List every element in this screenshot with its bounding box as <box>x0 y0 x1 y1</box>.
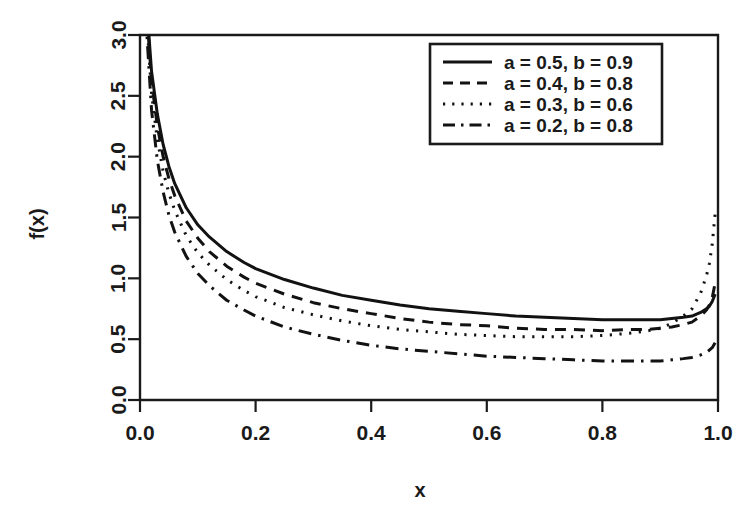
y-tick-label: 2.0 <box>107 142 130 171</box>
x-tick-label: 0.8 <box>588 421 618 444</box>
x-axis-title: x <box>414 479 425 501</box>
y-tick-label: 3.0 <box>107 20 130 49</box>
legend-label: a = 0.5, b = 0.9 <box>504 52 633 73</box>
y-axis-title: f(x) <box>26 208 48 239</box>
x-axis-ticks: 0.00.20.40.60.81.0 <box>125 400 732 444</box>
figure-canvas: 0.00.51.01.52.02.53.0 0.00.20.40.60.81.0… <box>0 0 756 521</box>
y-tick-label: 1.0 <box>107 264 130 293</box>
y-tick-label: 0.5 <box>107 324 130 354</box>
legend-label: a = 0.3, b = 0.6 <box>504 94 633 115</box>
legend-label: a = 0.4, b = 0.8 <box>504 73 633 94</box>
legend: a = 0.5, b = 0.9a = 0.4, b = 0.8a = 0.3,… <box>430 44 662 144</box>
y-tick-label: 0.0 <box>107 385 130 414</box>
y-tick-label: 1.5 <box>107 203 130 233</box>
y-axis-ticks: 0.00.51.01.52.02.53.0 <box>107 20 141 414</box>
x-tick-label: 0.4 <box>357 421 387 444</box>
line-chart: 0.00.51.01.52.02.53.0 0.00.20.40.60.81.0… <box>0 0 756 521</box>
y-tick-label: 2.5 <box>107 81 130 111</box>
legend-label: a = 0.2, b = 0.8 <box>504 115 633 136</box>
x-tick-label: 0.0 <box>125 421 154 444</box>
x-tick-label: 1.0 <box>703 421 732 444</box>
x-tick-label: 0.6 <box>472 421 501 444</box>
x-tick-label: 0.2 <box>241 421 270 444</box>
